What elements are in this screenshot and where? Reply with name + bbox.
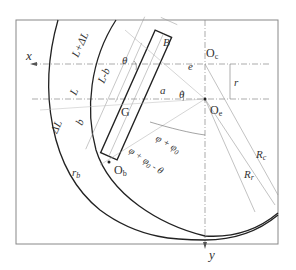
L-plus-dL-label: L+ΔL bbox=[68, 30, 90, 60]
L-label: L bbox=[66, 86, 80, 97]
Oc-label: Oc bbox=[206, 46, 219, 61]
Oe-label: Oe bbox=[210, 103, 223, 118]
dL-label: ΔL bbox=[47, 118, 63, 135]
Ob-point bbox=[108, 161, 111, 164]
phi-phi0-theta-label: φ + φ0 - θ bbox=[126, 145, 166, 178]
B-label: B bbox=[163, 36, 170, 48]
Oe-point bbox=[204, 98, 207, 101]
Rc-label: Rc bbox=[255, 148, 267, 162]
rotor-circle-arc bbox=[49, 20, 278, 240]
phi-phi0-label: φ + φ0 bbox=[153, 132, 183, 157]
Rc-aux-line bbox=[205, 64, 278, 195]
L-plus-dL-dimension bbox=[86, 17, 145, 149]
rb-label: rb bbox=[72, 166, 80, 180]
b-label: b bbox=[73, 116, 86, 126]
B-dimension bbox=[161, 17, 177, 24]
stator-circle-arc bbox=[91, 20, 278, 236]
L-minus-b-label: L-b bbox=[94, 66, 112, 86]
Ob-label: Ob bbox=[114, 163, 127, 178]
Rr-label: Rr bbox=[243, 168, 255, 182]
theta-mid-label: θ bbox=[179, 88, 185, 100]
y-axis-label: y bbox=[207, 247, 215, 262]
L-minus-b-dimension bbox=[115, 43, 141, 102]
x-axis-label: x bbox=[25, 48, 32, 63]
theta-arc-top bbox=[134, 61, 136, 70]
G-label: G bbox=[121, 105, 130, 119]
diagram-canvas: x y Oc Oe Ob B e r a θ θ L+ΔL L L-b b ΔL… bbox=[0, 0, 296, 270]
a-label: a bbox=[160, 84, 166, 96]
theta-top-label: θ bbox=[122, 54, 128, 66]
r-label: r bbox=[234, 76, 239, 88]
e-label: e bbox=[188, 60, 193, 72]
y-axis-arrow-icon bbox=[203, 242, 207, 249]
vane-geometry-diagram: x y Oc Oe Ob B e r a θ θ L+ΔL L L-b b ΔL… bbox=[0, 0, 296, 270]
